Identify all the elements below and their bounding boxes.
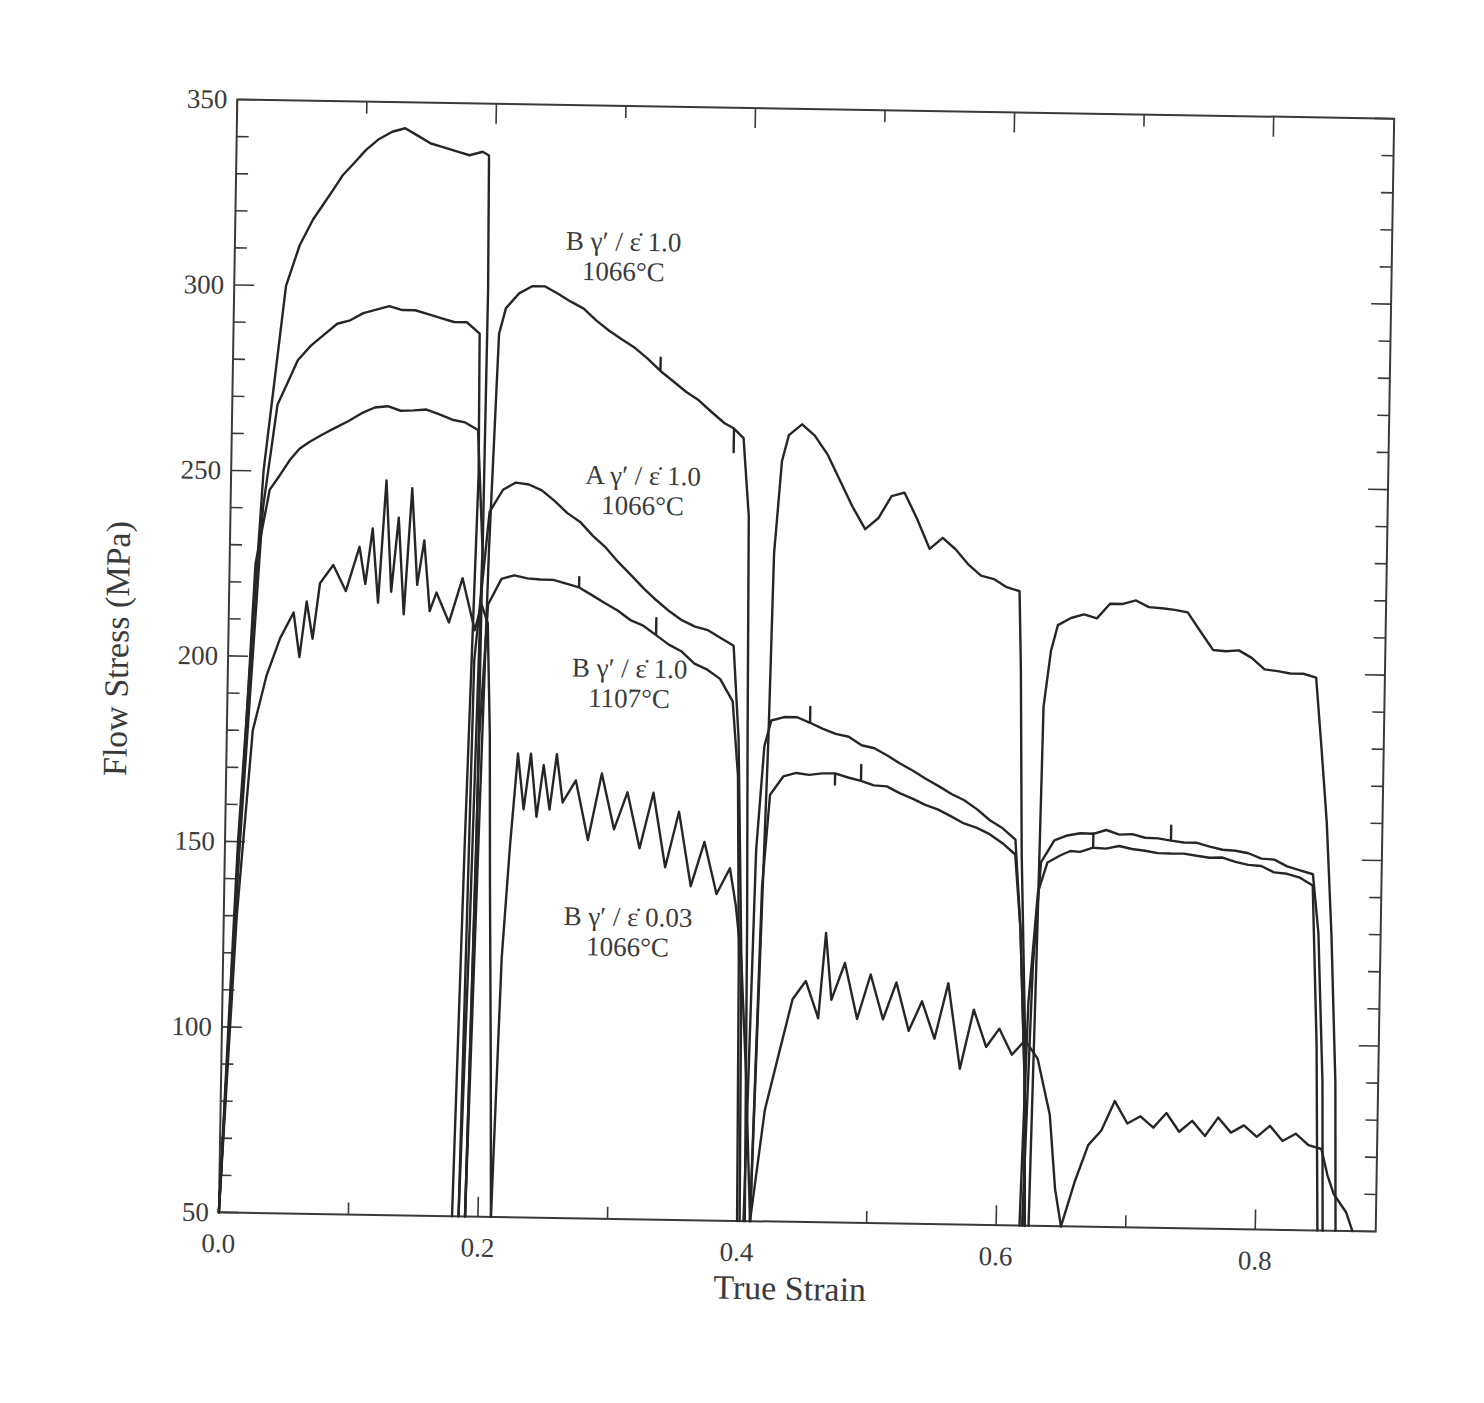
series-pass-path bbox=[1019, 832, 1323, 1230]
y-axis-title: Flow Stress (MPa) bbox=[96, 521, 138, 777]
y-axis-ticks: 50100150200250300350 bbox=[168, 84, 1394, 1247]
axes-box bbox=[219, 99, 1394, 1231]
chart-canvas: 0.00.20.40.60.8 50100150200250300350 B γ… bbox=[0, 0, 1484, 1403]
series-2 bbox=[219, 304, 1338, 1231]
x-tick-label: 0.4 bbox=[719, 1237, 754, 1268]
y-tick-label: 300 bbox=[183, 269, 224, 300]
annotations-layer: B γ′ / ε̇ 1.01066°CA γ′ / ε̇ 1.01066°CB … bbox=[554, 226, 705, 963]
y-tick-label: 100 bbox=[171, 1011, 212, 1042]
y-tick-label: 150 bbox=[174, 826, 215, 857]
x-axis-title: True Strain bbox=[713, 1269, 866, 1309]
curve-annotation-line2: 1066°C bbox=[586, 931, 669, 962]
plot-border bbox=[219, 99, 1394, 1231]
curve-annotation-line2: 1066°C bbox=[601, 490, 684, 521]
series-layer bbox=[219, 125, 1371, 1231]
plot-frame: 0.00.20.40.60.8 50100150200250300350 B γ… bbox=[87, 82, 1394, 1316]
series-pass-path bbox=[219, 304, 482, 1217]
curve-annotation-line1: B γ′ / ε̇ 0.03 bbox=[563, 901, 692, 933]
series-pass-path bbox=[750, 932, 1066, 1227]
curve-annotation-line2: 1107°C bbox=[588, 683, 670, 714]
y-tick-label: 350 bbox=[187, 84, 228, 115]
series-pass-path bbox=[491, 753, 758, 1221]
y-tick-label: 50 bbox=[182, 1197, 209, 1227]
series-3 bbox=[219, 404, 1331, 1231]
series-pass-path bbox=[465, 285, 760, 1221]
flow-stress-chart: 0.00.20.40.60.8 50100150200250300350 B γ… bbox=[0, 0, 1484, 1403]
x-tick-label: 0.0 bbox=[201, 1228, 235, 1259]
curve-annotation-line1: B γ′ / ε̇ 1.0 bbox=[572, 652, 688, 684]
series-pass-path bbox=[1022, 823, 1329, 1230]
x-tick-label: 0.8 bbox=[1238, 1245, 1272, 1276]
curve-annotation-line1: A γ′ / ε̇ 1.0 bbox=[585, 460, 701, 492]
y-tick-label: 250 bbox=[180, 455, 221, 486]
series-pass-path bbox=[1061, 1100, 1355, 1231]
y-tick-label: 200 bbox=[177, 640, 218, 671]
series-pass-path bbox=[743, 706, 1033, 1226]
series-pass-path bbox=[219, 125, 491, 1216]
series-1 bbox=[219, 125, 1354, 1230]
curve-annotation-line2: 1066°C bbox=[582, 256, 665, 287]
x-tick-label: 0.2 bbox=[460, 1232, 494, 1263]
x-tick-label: 0.6 bbox=[978, 1241, 1012, 1272]
curve-annotation-line1: B γ′ / ε̇ 1.0 bbox=[566, 226, 682, 258]
